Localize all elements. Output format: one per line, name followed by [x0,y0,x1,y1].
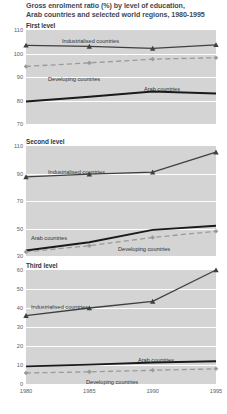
series-label-developing: Developing countries [48,76,100,82]
x-axis: 1980198519901995 [26,388,216,398]
series-layer [26,270,216,384]
series-label-developing: Developing countries [86,379,138,385]
data-marker [214,229,219,234]
y-axis-tick: 50 [17,226,23,232]
data-marker [150,235,155,240]
panel-title-first-level: First level [26,22,55,29]
series-line-developing-countries [26,58,216,67]
data-marker [214,55,219,60]
y-axis-tick: 90 [17,74,23,80]
series-label-arab: Arab countries [31,235,67,241]
data-marker [213,150,218,155]
plot-area-first-level: 110100908070Industrialised countriesDeve… [26,30,216,124]
y-axis-tick: 80 [17,98,23,104]
series-line-developing-countries [26,369,216,373]
panel-title-third-level: Third level [26,262,57,269]
series-label-industrialised: Industrialised countries [31,304,88,310]
x-axis-tick: 1980 [20,388,32,394]
series-line-arab-countries [26,92,216,102]
data-marker [150,57,155,62]
chart-page: Gross enrolment ratio (%) by level of ed… [0,0,227,414]
chart-title-line-1: Gross enrolment ratio (%) by level of ed… [26,2,224,11]
plot-area-second-level: 11090705030Industrialised countriesArab … [26,146,216,256]
panel-title-second-level: Second level [26,138,64,145]
series-line-arab-countries [26,361,216,366]
data-marker [24,371,29,376]
y-axis-tick: 40 [17,305,23,311]
y-axis-tick: 20 [17,343,23,349]
series-label-industrialised: Industrialised countries [62,38,119,44]
y-axis-tick: 70 [17,198,23,204]
y-axis-tick: 60 [17,267,23,273]
data-marker [87,370,92,375]
y-axis-tick: 110 [14,27,23,33]
series-label-arab: Arab countries [138,357,174,363]
y-axis-tick: 10 [17,362,23,368]
y-axis-tick: 30 [17,253,23,259]
data-marker [87,243,92,248]
data-marker [24,64,29,69]
x-axis-tick: 1990 [146,388,158,394]
data-marker [150,368,155,373]
y-axis-tick: 50 [17,286,23,292]
y-axis-tick: 0 [20,381,23,387]
plot-area-third-level: 6050403020100Industrialised countriesAra… [26,270,216,384]
y-axis-tick: 70 [17,121,23,127]
y-axis-tick: 100 [14,51,23,57]
series-label-developing: Developing countries [118,246,170,252]
data-marker [87,61,92,66]
x-axis-tick: 1985 [83,388,95,394]
data-marker [214,367,219,372]
x-axis-tick: 1995 [210,388,222,394]
y-axis-tick: 90 [17,171,23,177]
y-axis-tick: 30 [17,324,23,330]
chart-title-line-2: Arab countries and selected world region… [26,11,224,20]
y-axis-tick: 110 [14,143,23,149]
series-label-arab: Arab countries [144,86,180,92]
chart-title: Gross enrolment ratio (%) by level of ed… [26,2,224,21]
series-line-industrialised-countries [26,45,216,49]
data-marker [213,267,218,272]
series-label-industrialised: Industrialised countries [48,169,105,175]
